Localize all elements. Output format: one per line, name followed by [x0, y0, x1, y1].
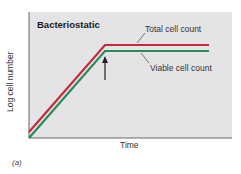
total-leader-line: [137, 33, 145, 43]
chart-title: Bacteriostatic: [37, 19, 100, 30]
viable-cell-count-label: Viable cell count: [150, 63, 212, 73]
viable-leader-line: [141, 53, 149, 63]
y-axis-label: Log cell number: [5, 52, 15, 112]
x-axis-label: Time: [120, 140, 139, 150]
arrow-head-icon: [102, 56, 108, 63]
total-cell-count-line: [29, 45, 209, 132]
panel-label: (a): [12, 158, 22, 167]
total-cell-count-label: Total cell count: [145, 24, 201, 34]
